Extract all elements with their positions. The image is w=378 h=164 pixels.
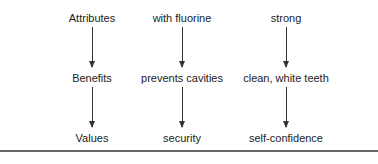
label-clean-white-teeth: clean, white teeth <box>243 72 329 85</box>
label-self-confidence: self-confidence <box>249 132 323 145</box>
label-security: security <box>163 132 201 145</box>
arrow-down-icon <box>182 87 183 127</box>
arrow-down-icon <box>286 27 287 67</box>
label-strong: strong <box>271 12 302 25</box>
arrow-down-icon <box>182 27 183 67</box>
label-attributes: Attributes <box>69 12 115 25</box>
label-prevents-cavities: prevents cavities <box>141 72 223 85</box>
arrow-down-icon <box>92 87 93 127</box>
label-benefits: Benefits <box>72 72 112 85</box>
arrow-down-icon <box>92 27 93 67</box>
bottom-rule <box>0 150 378 152</box>
label-with-fluorine: with fluorine <box>153 12 212 25</box>
arrow-down-icon <box>286 87 287 127</box>
label-values: Values <box>76 132 109 145</box>
